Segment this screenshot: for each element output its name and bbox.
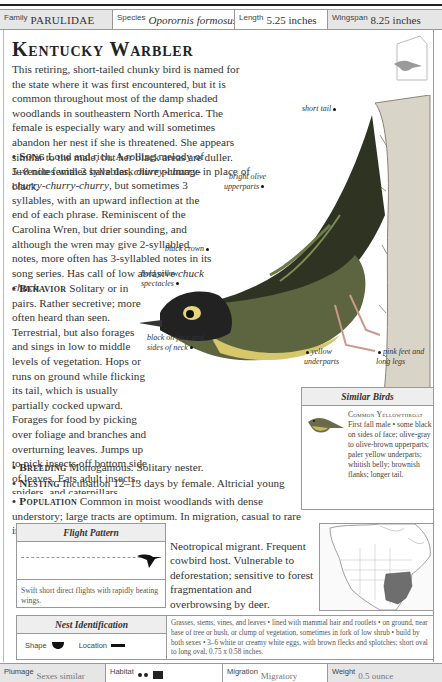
length-cell: Length 5.25 inches — [235, 10, 328, 29]
family-value: PARULIDAE — [31, 14, 95, 26]
habitat-label: Habitat — [110, 667, 134, 676]
callout-bright-olive-upperparts: bright olive upperparts — [210, 172, 266, 191]
callout-pink-feet: pink feet and long legs — [376, 347, 428, 366]
nest-id-left: Nest Identification Shape Location — [17, 616, 167, 659]
plumage-label: Plumage — [4, 667, 34, 676]
plumage-value: Sexes similar — [37, 671, 85, 681]
population-heading: Population — [12, 495, 77, 507]
callout-short-tail: short tail — [302, 104, 338, 114]
length-label: Length — [239, 13, 263, 22]
north-america-map — [320, 524, 434, 611]
left-rule — [3, 30, 4, 662]
nesting-heading: Nesting — [12, 477, 60, 489]
song-heading: Song — [12, 150, 45, 162]
plumage-cell: Plumage Sexes similar — [0, 664, 106, 682]
top-rule — [0, 4, 442, 6]
callout-black-face: black on face and sides of neck — [147, 333, 219, 352]
species-info-bar: Family PARULIDAE Species Oporornis formo… — [0, 9, 442, 30]
cup-nest-shape-icon — [51, 640, 65, 650]
similar-birds-header: Similar Birds — [302, 388, 433, 406]
similar-bird-text: Common Yellowthroat First fall male • so… — [348, 410, 433, 480]
book-bird-icon — [392, 34, 432, 82]
family-label: Family — [4, 13, 28, 22]
callout-yellow-underparts: yellow underparts — [304, 347, 348, 366]
similar-birds-box: Similar Birds Common Yellowthroat First … — [301, 387, 434, 510]
common-yellowthroat-icon — [306, 414, 346, 438]
species-label: Species — [117, 13, 145, 22]
migration-value: Migratory — [261, 671, 298, 681]
breeding-heading: Breeding — [12, 461, 67, 473]
habitat-forest-icons — [137, 669, 167, 681]
nest-location-label: Location — [79, 641, 107, 650]
nest-id-header: Nest Identification — [17, 616, 166, 634]
ground-location-icon — [111, 642, 125, 648]
flight-pattern-header: Flight Pattern — [17, 524, 165, 542]
flight-pattern-box: Flight Pattern Swift short direct flight… — [16, 523, 166, 608]
family-cell: Family PARULIDAE — [0, 10, 113, 29]
wingspan-value: 8.25 inches — [371, 14, 421, 26]
migration-cell: Migration Migratory — [223, 664, 328, 682]
wingspan-label: Wingspan — [332, 13, 368, 22]
migration-label: Migration — [227, 667, 258, 676]
footer-info-bar: Plumage Sexes similar Habitat Migration … — [0, 663, 442, 682]
wingspan-cell: Wingspan 8.25 inches — [328, 10, 442, 29]
page-title: Kentucky Warbler — [12, 38, 193, 61]
callout-black-crown: black crown — [165, 244, 211, 254]
nest-shape-location-row: Shape Location — [17, 634, 166, 656]
nest-shape-label: Shape — [25, 641, 47, 650]
weight-value: 0.5 ounce — [358, 671, 393, 681]
breeding-section: Breeding Monogamous. Solitary nester. — [12, 460, 302, 475]
flight-pattern-caption: Swift short direct flights with rapidly … — [17, 580, 165, 612]
breeding-text: Monogamous. Solitary nester. — [69, 461, 203, 473]
flying-bird-icon — [135, 548, 165, 570]
species-cell: Species Oporornis formosus — [113, 10, 235, 29]
weight-cell: Weight 0.5 ounce — [328, 664, 442, 682]
range-map — [319, 523, 434, 611]
similar-bird-name: Common Yellowthroat — [348, 410, 433, 420]
flight-path — [17, 542, 165, 580]
behavior-heading: Behavior — [12, 282, 66, 294]
length-value: 5.25 inches — [266, 14, 316, 26]
weight-label: Weight — [332, 667, 355, 676]
habitat-cell: Habitat — [106, 664, 223, 682]
similar-bird-desc: First fall male • some black on sides of… — [348, 420, 433, 480]
nest-identification-box: Nest Identification Shape Location Grass… — [16, 615, 434, 660]
species-value: Oporornis formosus — [148, 14, 235, 26]
callout-bold-yellow-spectacles: bold yellow spectacles — [141, 269, 193, 288]
nest-id-description: Grasses, stems, vines, and leaves • line… — [167, 616, 433, 659]
conservation-text: Neotropical migrant. Frequent cowbird ho… — [170, 540, 313, 610]
